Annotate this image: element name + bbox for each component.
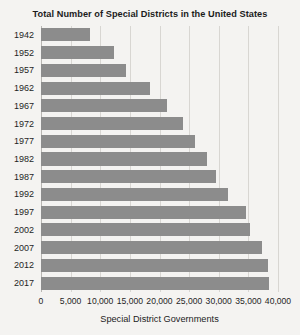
x-axis-title: Special District Governments xyxy=(41,314,278,324)
y-tick-1997: 1997 xyxy=(14,207,34,217)
x-tick-20000: 20,000 xyxy=(146,296,172,307)
bar-1992[interactable] xyxy=(41,188,228,201)
bar-1967[interactable] xyxy=(41,99,167,112)
bar-1997[interactable] xyxy=(41,206,246,219)
x-tick-40000: 40,000 xyxy=(265,296,291,307)
y-tick-1942: 1942 xyxy=(14,30,34,40)
bar-2012[interactable] xyxy=(41,259,268,272)
x-tick-30000: 30,000 xyxy=(206,296,232,307)
y-tick-2002: 2002 xyxy=(14,225,34,235)
bar-row xyxy=(41,277,278,290)
x-tick-5000: 5,000 xyxy=(60,296,82,307)
bar-row xyxy=(41,64,278,77)
bar-series xyxy=(41,26,278,292)
bar-row xyxy=(41,152,278,165)
x-tick-35000: 35,000 xyxy=(235,296,261,307)
bar-1942[interactable] xyxy=(41,28,90,41)
plot-area xyxy=(41,26,278,292)
bar-row xyxy=(41,99,278,112)
chart-title: Total Number of Special Districts in the… xyxy=(0,9,300,20)
y-tick-1972: 1972 xyxy=(14,119,34,129)
bar-1952[interactable] xyxy=(41,46,114,59)
x-tick-10000: 10,000 xyxy=(87,296,113,307)
bar-2007[interactable] xyxy=(41,241,262,254)
y-tick-1957: 1957 xyxy=(14,65,34,75)
y-tick-1977: 1977 xyxy=(14,136,34,146)
bar-row xyxy=(41,223,278,236)
bar-2017[interactable] xyxy=(41,277,269,290)
y-tick-1967: 1967 xyxy=(14,101,34,111)
bar-1957[interactable] xyxy=(41,64,126,77)
y-tick-2007: 2007 xyxy=(14,243,34,253)
x-tick-15000: 15,000 xyxy=(117,296,143,307)
bar-row xyxy=(41,28,278,41)
bar-row xyxy=(41,82,278,95)
y-tick-1992: 1992 xyxy=(14,189,34,199)
y-tick-1987: 1987 xyxy=(14,172,34,182)
bar-1987[interactable] xyxy=(41,170,216,183)
bar-row xyxy=(41,188,278,201)
bar-row xyxy=(41,135,278,148)
bar-row xyxy=(41,206,278,219)
gridline-40000 xyxy=(278,26,279,292)
bar-1962[interactable] xyxy=(41,82,150,95)
bar-1982[interactable] xyxy=(41,152,207,165)
y-tick-1952: 1952 xyxy=(14,48,34,58)
y-axis-tick-labels: 1942195219571962196719721977198219871992… xyxy=(0,26,38,292)
y-tick-2017: 2017 xyxy=(14,278,34,288)
bar-row xyxy=(41,259,278,272)
chart-container: Total Number of Special Districts in the… xyxy=(0,0,300,335)
bar-2002[interactable] xyxy=(41,223,250,236)
bar-row xyxy=(41,241,278,254)
bar-row xyxy=(41,170,278,183)
x-tick-25000: 25,000 xyxy=(176,296,202,307)
bar-row xyxy=(41,46,278,59)
y-tick-1962: 1962 xyxy=(14,83,34,93)
bar-1972[interactable] xyxy=(41,117,183,130)
y-tick-1982: 1982 xyxy=(14,154,34,164)
y-tick-2012: 2012 xyxy=(14,260,34,270)
x-axis-tick-labels: 05,00010,00015,00020,00025,00030,00035,0… xyxy=(0,296,300,310)
bar-1977[interactable] xyxy=(41,135,195,148)
x-tick-0: 0 xyxy=(39,296,44,307)
bar-row xyxy=(41,117,278,130)
